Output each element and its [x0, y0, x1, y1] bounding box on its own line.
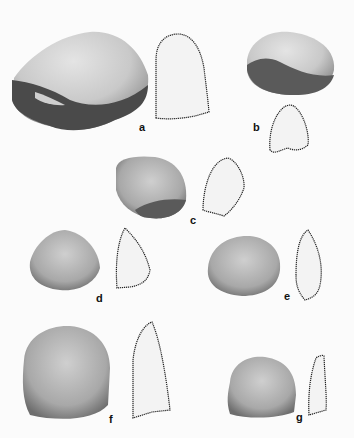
specimen-g-photo: [228, 357, 296, 418]
artifact-plate: [0, 0, 354, 438]
label-d: d: [96, 292, 103, 304]
label-f: f: [109, 413, 113, 425]
specimen-c-profile: [203, 158, 244, 216]
specimen-d-profile: [116, 228, 150, 288]
specimen-f-profile: [133, 322, 170, 418]
specimen-b-photo: [247, 32, 334, 95]
label-c: c: [190, 214, 196, 226]
label-g: g: [296, 411, 303, 423]
label-a: a: [139, 121, 145, 133]
specimen-f-photo: [23, 326, 110, 419]
specimen-e-photo: [208, 236, 280, 296]
label-b: b: [253, 121, 260, 133]
label-e: e: [284, 290, 290, 302]
specimen-d-photo: [30, 230, 100, 290]
specimen-g-profile: [309, 355, 327, 415]
specimen-a-profile: [156, 34, 209, 119]
specimen-a-photo: [12, 32, 148, 130]
specimen-c-photo: [116, 156, 186, 218]
specimen-e-profile: [296, 230, 321, 300]
specimen-b-profile: [270, 105, 308, 152]
